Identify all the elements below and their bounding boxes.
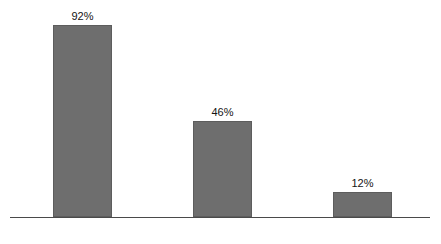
bar-value-label: 92% [41,10,124,22]
bar-rect[interactable] [193,121,252,217]
x-axis-baseline [10,217,430,218]
bar-value-label: 12% [321,177,404,189]
bar-value-label: 46% [181,106,264,118]
plot-area: 92% Monocrystalline 46% Polycrystalline … [0,0,441,244]
bar-rect[interactable] [53,25,112,217]
bar-chart: 92% Monocrystalline 46% Polycrystalline … [0,0,441,244]
bar-rect[interactable] [333,192,392,217]
